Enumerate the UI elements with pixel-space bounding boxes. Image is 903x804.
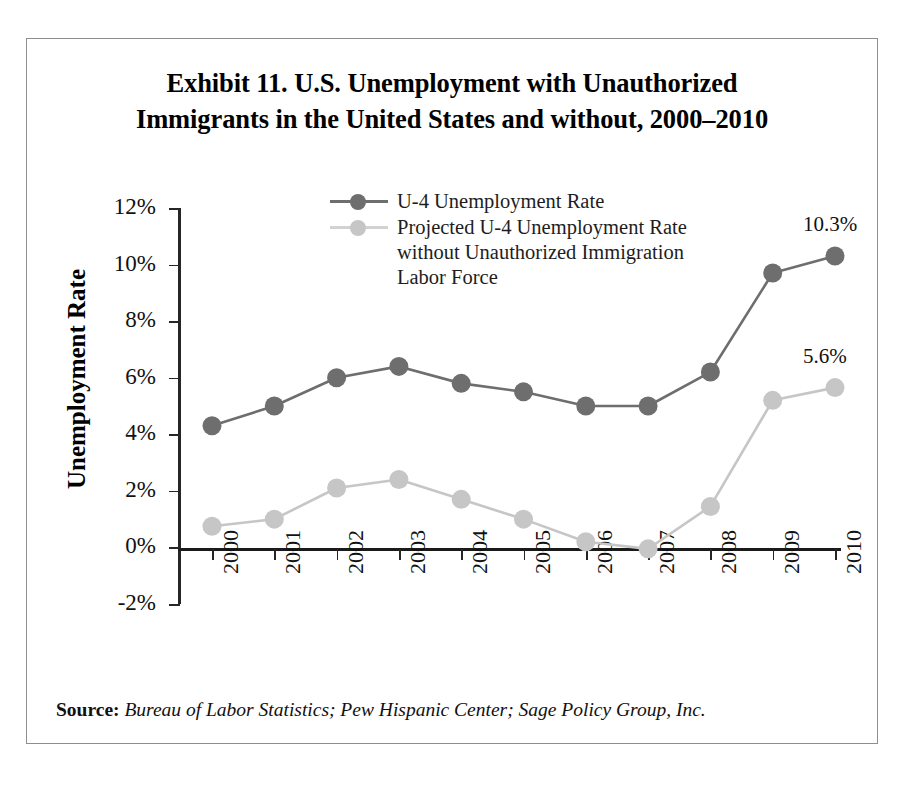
data-point — [701, 497, 720, 516]
data-point — [389, 357, 408, 376]
data-point — [514, 382, 533, 401]
chart-title-line-1: Exhibit 11. U.S. Unemployment with Unaut… — [27, 65, 877, 101]
source-text: Bureau of Labor Statistics; Pew Hispanic… — [124, 699, 705, 720]
point-value-label: 5.6% — [803, 344, 847, 369]
data-point — [327, 368, 346, 387]
y-tick-label: 4% — [125, 420, 156, 446]
series-0 — [203, 247, 845, 436]
y-axis-title-label: Unemployment Rate — [63, 209, 91, 549]
data-point — [701, 363, 720, 382]
y-tick-label: 8% — [125, 307, 156, 333]
data-point — [265, 397, 284, 416]
data-point — [452, 490, 471, 509]
data-point — [763, 391, 782, 410]
data-point — [576, 532, 595, 551]
data-point — [327, 479, 346, 498]
data-point — [826, 247, 845, 266]
source-label: Source: — [56, 699, 120, 720]
data-point — [639, 539, 658, 558]
y-tick-label: 2% — [125, 477, 156, 503]
figure-frame: Exhibit 11. U.S. Unemployment with Unaut… — [26, 38, 878, 744]
y-tick-label: -2% — [118, 590, 156, 616]
data-point — [639, 397, 658, 416]
data-point — [265, 510, 284, 529]
plot-area: -2%0%2%4%6%8%10%12% 20002001200220032004… — [178, 208, 856, 604]
series-1 — [203, 378, 845, 558]
chart-title-line-2: Immigrants in the United States and with… — [27, 101, 877, 137]
data-point — [576, 397, 595, 416]
y-tick: -2% — [169, 604, 180, 606]
series-plot — [178, 208, 856, 604]
data-point — [826, 378, 845, 397]
source-note: Source: Bureau of Labor Statistics; Pew … — [56, 699, 706, 721]
y-tick-label: 10% — [114, 251, 156, 277]
data-point — [763, 264, 782, 283]
data-point — [203, 416, 222, 435]
point-value-label: 10.3% — [803, 212, 857, 237]
data-point — [452, 374, 471, 393]
y-tick-label: 0% — [125, 533, 156, 559]
data-point — [514, 510, 533, 529]
data-point — [203, 517, 222, 536]
chart-title: Exhibit 11. U.S. Unemployment with Unaut… — [27, 65, 877, 137]
y-tick-label: 6% — [125, 364, 156, 390]
y-tick-label: 12% — [114, 194, 156, 220]
y-axis-title: Unemployment Rate — [63, 0, 91, 209]
data-point — [389, 470, 408, 489]
